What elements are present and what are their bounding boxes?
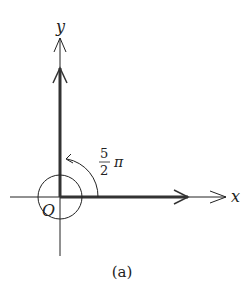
origin-label: O bbox=[42, 201, 55, 220]
angle-pi-symbol: π bbox=[113, 154, 124, 170]
figure-caption: (a) bbox=[112, 263, 133, 281]
angle-denominator: 2 bbox=[100, 163, 108, 178]
x-axis-label: x bbox=[231, 187, 240, 206]
y-axis-label: y bbox=[55, 17, 66, 36]
angle-diagram: y x O 5 2 π (a) bbox=[0, 0, 244, 285]
angle-numerator: 5 bbox=[100, 146, 108, 161]
rotation-arrowhead bbox=[66, 154, 73, 163]
